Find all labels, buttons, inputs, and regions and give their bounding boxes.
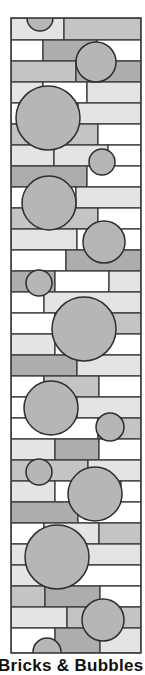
bubble-circle	[68, 467, 122, 521]
bubble-circle	[26, 459, 52, 485]
bubble-circle	[83, 221, 125, 263]
caption-title: Bricks & Bubbles	[0, 656, 145, 675]
brick	[87, 82, 141, 103]
brick	[11, 439, 55, 460]
bricks-and-bubbles-illustration	[0, 0, 145, 660]
brick	[11, 229, 77, 250]
bubble-circle	[25, 525, 89, 589]
brick	[99, 439, 141, 460]
brick	[11, 334, 55, 355]
bubble-circle	[52, 297, 116, 361]
brick-row	[11, 628, 141, 653]
brick	[99, 376, 141, 397]
bubble-circle	[89, 149, 115, 175]
bubble-circle	[26, 270, 52, 296]
bubble-circle	[16, 86, 80, 150]
bubble-circle	[76, 42, 116, 82]
brick	[11, 355, 77, 376]
brick	[78, 103, 141, 124]
brick	[55, 271, 109, 292]
brick	[121, 481, 141, 502]
brick	[11, 250, 66, 271]
brick	[11, 607, 67, 628]
brick-row	[11, 586, 141, 607]
brick	[64, 18, 141, 40]
brick-row	[11, 439, 141, 460]
brick	[11, 40, 43, 61]
brick	[11, 61, 76, 82]
bubble-circle	[24, 381, 78, 435]
brick	[11, 586, 45, 607]
bubble-circle	[82, 599, 124, 641]
brick	[109, 271, 141, 292]
brick	[99, 523, 141, 544]
brick	[11, 502, 78, 523]
bubble-circle	[96, 413, 124, 441]
brick	[11, 313, 55, 334]
brick	[98, 124, 141, 145]
brick	[55, 439, 99, 460]
brick	[76, 187, 141, 208]
bubble-circle	[22, 176, 76, 230]
brick-row	[11, 145, 141, 166]
